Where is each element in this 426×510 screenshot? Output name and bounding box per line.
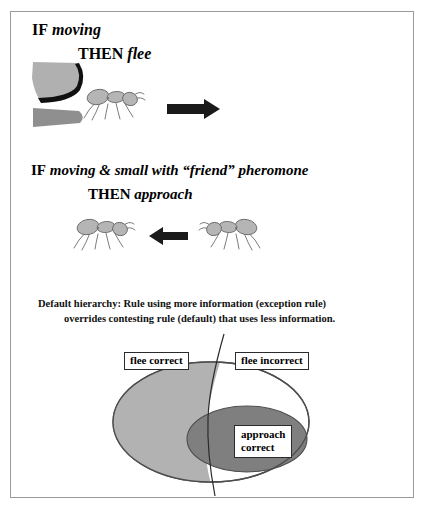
rule2-if-keyword: IF (31, 162, 46, 178)
rule2-action: approach (134, 186, 192, 202)
ant-approach-left (74, 217, 135, 250)
rule2-condition: moving & small with “friend” pheromone (50, 162, 309, 178)
rule1-if-keyword: IF (32, 21, 48, 38)
venn-label-approach-line-2: correct (241, 441, 274, 453)
rule1-condition: moving (52, 21, 101, 38)
rule1-action: flee (127, 45, 151, 62)
caption-line-2: overrides contesting rule (default) that… (38, 311, 390, 326)
ant-approach-right (199, 217, 260, 250)
predator-illustration (32, 62, 83, 127)
rule1-if-line: IF moving (32, 22, 101, 39)
flee-arrow-right (167, 99, 220, 119)
caption-line-1: Default hierarchy: Rule using more infor… (38, 298, 326, 309)
rule1-then-line: THEN flee (78, 46, 151, 63)
rule2-then-keyword: THEN (88, 186, 131, 202)
figure-canvas: IF moving THEN flee IF moving & small wi… (0, 0, 426, 510)
default-hierarchy-caption: Default hierarchy: Rule using more infor… (38, 296, 390, 326)
venn-label-approach-correct: approach correct (234, 425, 292, 458)
rule1-then-keyword: THEN (78, 45, 123, 62)
ant-fleeing (84, 87, 145, 120)
rule2-then-line: THEN approach (88, 187, 193, 203)
venn-label-flee-correct: flee correct (124, 352, 189, 370)
rule2-if-line: IF moving & small with “friend” pheromon… (31, 163, 309, 179)
venn-label-flee-incorrect: flee incorrect (235, 352, 309, 370)
venn-label-approach-line-1: approach (241, 428, 285, 440)
approach-arrow-left (149, 227, 188, 245)
figure-artwork (0, 0, 426, 510)
